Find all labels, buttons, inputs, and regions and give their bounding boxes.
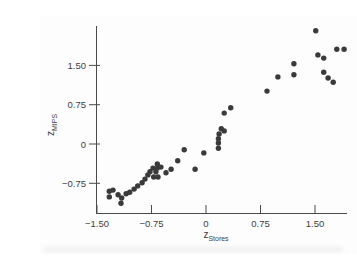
x-tick-label: −1.50 bbox=[85, 218, 109, 229]
y-tick-label: 1.50 bbox=[68, 60, 87, 71]
data-point bbox=[216, 146, 221, 151]
data-point bbox=[216, 131, 221, 136]
data-point bbox=[201, 150, 206, 155]
data-point bbox=[315, 52, 320, 57]
x-tick-label: 1.50 bbox=[306, 218, 325, 229]
data-point bbox=[341, 47, 346, 52]
x-axis-title: zStores bbox=[203, 229, 229, 242]
data-point bbox=[163, 170, 168, 175]
data-point bbox=[325, 75, 330, 80]
data-point bbox=[321, 55, 326, 60]
data-point bbox=[168, 167, 173, 172]
data-point bbox=[153, 169, 158, 174]
data-point bbox=[264, 88, 269, 93]
data-point bbox=[334, 47, 339, 52]
data-point bbox=[158, 164, 163, 169]
data-point bbox=[216, 136, 221, 141]
y-axis-title: zMIPS bbox=[45, 114, 58, 136]
scatter-plot-figure: 1.500.750−0.75−1.50−0.7500.751.50zStores… bbox=[40, 16, 357, 254]
data-point bbox=[228, 105, 233, 110]
data-point bbox=[291, 61, 296, 66]
data-point bbox=[222, 128, 227, 133]
data-point bbox=[275, 74, 280, 79]
y-tick-label: 0.75 bbox=[68, 99, 87, 110]
data-point bbox=[118, 201, 123, 206]
scan-artifact bbox=[44, 247, 343, 252]
x-tick-label: 0 bbox=[203, 218, 208, 229]
data-point bbox=[291, 72, 296, 77]
data-point bbox=[155, 174, 160, 179]
data-point bbox=[182, 147, 187, 152]
data-point bbox=[119, 195, 124, 200]
data-point bbox=[321, 70, 326, 75]
data-point bbox=[192, 167, 197, 172]
data-point bbox=[313, 28, 318, 33]
scatter-chart: 1.500.750−0.75−1.50−0.7500.751.50zStores… bbox=[40, 16, 357, 254]
data-point bbox=[175, 158, 180, 163]
y-tick-label: 0 bbox=[81, 139, 86, 150]
y-tick-label: −0.75 bbox=[62, 178, 86, 189]
data-point bbox=[127, 190, 132, 195]
data-point bbox=[222, 110, 227, 115]
data-point bbox=[135, 183, 140, 188]
x-tick-label: −0.75 bbox=[139, 218, 163, 229]
data-point bbox=[331, 80, 336, 85]
data-point bbox=[107, 194, 112, 199]
x-tick-label: 0.75 bbox=[251, 218, 270, 229]
data-point bbox=[110, 187, 115, 192]
